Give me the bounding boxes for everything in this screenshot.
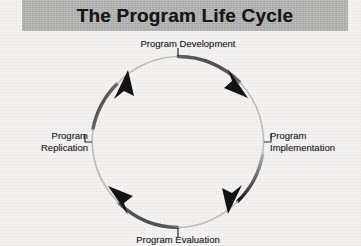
cycle-arc-replication-to-development xyxy=(93,84,117,129)
program-life-cycle-figure: The Program Life Cycle xyxy=(0,0,361,246)
stage-label-program-development: Program Development xyxy=(118,38,258,50)
cycle-diagram xyxy=(0,0,361,246)
cycle-arc-evaluation-to-replication xyxy=(119,203,178,228)
cycle-arc-implementation-to-evaluation xyxy=(238,155,263,201)
cycle-arc-development-to-implementation xyxy=(178,56,240,82)
stage-label-program-evaluation: Program Evaluation xyxy=(108,234,248,246)
stage-label-program-implementation: Program Implementation xyxy=(270,130,358,153)
stage-label-program-replication: Program Replication xyxy=(8,130,88,153)
